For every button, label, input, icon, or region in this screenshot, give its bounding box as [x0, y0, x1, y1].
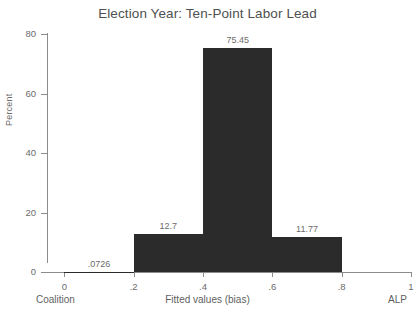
y-tick-mark: [41, 213, 47, 214]
x-tick-mark: [272, 272, 273, 277]
y-tick-mark: [41, 153, 47, 154]
chart-title: Election Year: Ten-Point Labor Lead: [0, 6, 415, 21]
x-tick-label: .2: [114, 281, 154, 292]
y-tick-mark: [41, 94, 47, 95]
bar-value-label: 75.45: [203, 35, 273, 45]
x-tick-mark: [134, 272, 135, 277]
x-axis-label: Fitted values (bias): [0, 294, 415, 305]
x-tick-mark: [342, 272, 343, 277]
y-tick-mark: [41, 272, 47, 273]
bar-value-label: 11.77: [272, 224, 342, 234]
x-tick-mark: [203, 272, 204, 277]
x-tick-label: .8: [322, 281, 362, 292]
x-axis-right-endpoint-label: ALP: [388, 294, 407, 305]
histogram-chart: Election Year: Ten-Point Labor Lead Perc…: [0, 0, 415, 317]
histogram-bar: [64, 272, 133, 273]
y-tick-mark: [41, 34, 47, 35]
histogram-bar: [203, 48, 272, 272]
bar-value-label: 12.7: [133, 221, 203, 231]
y-tick-label: 60: [0, 88, 36, 99]
histogram-bar: [272, 237, 341, 272]
x-tick-label: .4: [183, 281, 223, 292]
y-tick-label: 80: [0, 28, 36, 39]
x-tick-label: 0: [44, 281, 84, 292]
histogram-bar: [134, 234, 203, 272]
y-tick-label: 20: [0, 207, 36, 218]
x-tick-label: .6: [252, 281, 292, 292]
x-tick-label: 1: [391, 281, 415, 292]
y-tick-label: 0: [0, 266, 36, 277]
x-tick-mark: [411, 272, 412, 277]
bar-value-label: .0726: [64, 259, 134, 269]
y-axis-line: [47, 33, 48, 263]
y-tick-label: 40: [0, 147, 36, 158]
